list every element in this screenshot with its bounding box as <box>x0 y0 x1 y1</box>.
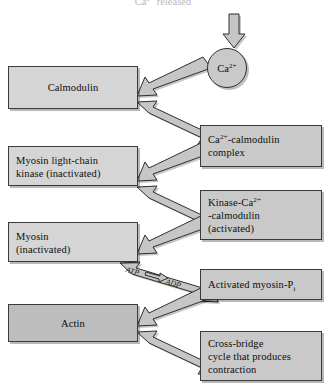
box-kinase-ca-calmodulin-line-3: (activated) <box>208 223 316 235</box>
box-ca-calmodulin-complex: Ca2+-calmodulin complex <box>200 125 322 167</box>
flowchart-diagram: Ca2+ released .ar{fill:#c6c6c6;stroke:#2… <box>0 0 326 386</box>
box-myosin: Myosin (inactivated) <box>8 222 138 262</box>
box-cross-bridge-cycle-line-3: contraction <box>208 364 316 376</box>
box-cross-bridge-cycle-line-2: cycle that produces <box>208 351 316 363</box>
arrow-ca-to-calmodulin <box>137 57 213 98</box>
box-cross-bridge-cycle: Cross-bridge cycle that produces contrac… <box>200 331 322 381</box>
box-myosin-line-2: (inactivated) <box>16 244 132 256</box>
box-mlck-line-2: kinase (inactivated) <box>16 168 132 180</box>
box-actin-label: Actin <box>9 318 137 330</box>
node-calcium-ion: Ca2+ <box>207 48 247 88</box>
box-actin: Actin <box>8 304 138 342</box>
box-kinase-ca-calmodulin: Kinase-Ca2+ -calmodulin (activated) <box>200 190 322 240</box>
box-ca-calmodulin-complex-line-2: complex <box>208 147 316 159</box>
box-kinase-ca-calmodulin-line-1: Kinase-Ca2+ <box>208 197 316 209</box>
box-calmodulin: Calmodulin <box>8 66 138 109</box>
node-calcium-ion-label: Ca2+ <box>217 63 236 74</box>
box-calmodulin-label: Calmodulin <box>9 82 137 94</box>
box-mlck: Myosin light-chain kinase (inactivated) <box>8 146 138 186</box>
box-cross-bridge-cycle-line-1: Cross-bridge <box>208 338 316 350</box>
box-kinase-ca-calmodulin-line-2: -calmodulin <box>208 210 316 222</box>
box-myosin-line-1: Myosin <box>16 231 132 243</box>
box-activated-myosin-pi-label: Activated myosin-Pi <box>208 279 316 291</box>
box-mlck-line-1: Myosin light-chain <box>16 155 132 167</box>
box-activated-myosin-pi: Activated myosin-Pi <box>200 269 322 300</box>
arrow-trigger-down <box>223 14 247 50</box>
box-ca-calmodulin-complex-line-1: Ca2+-calmodulin <box>208 134 316 146</box>
